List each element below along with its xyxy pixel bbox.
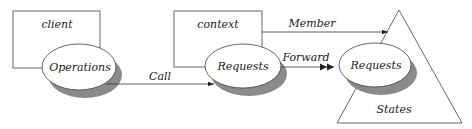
operations-label: Operations: [49, 61, 111, 74]
member-label: Member: [287, 17, 336, 30]
call-label: Call: [149, 70, 171, 83]
states-label: States: [376, 103, 411, 116]
call-edge: Call: [106, 70, 214, 84]
diagram-canvas: client context States Member Operations …: [0, 0, 472, 129]
arrowhead-icon: [327, 64, 334, 71]
requests-context-node: Requests: [205, 44, 287, 96]
arrowhead-icon: [320, 64, 327, 71]
requests-context-label: Requests: [216, 60, 268, 73]
operations-node: Operations: [42, 44, 122, 98]
member-edge: Member: [262, 17, 388, 32]
client-label: client: [41, 18, 73, 31]
context-label: context: [197, 18, 239, 31]
forward-label: Forward: [281, 51, 329, 64]
requests-states-label: Requests: [349, 59, 401, 72]
forward-edge: Forward: [281, 51, 334, 71]
